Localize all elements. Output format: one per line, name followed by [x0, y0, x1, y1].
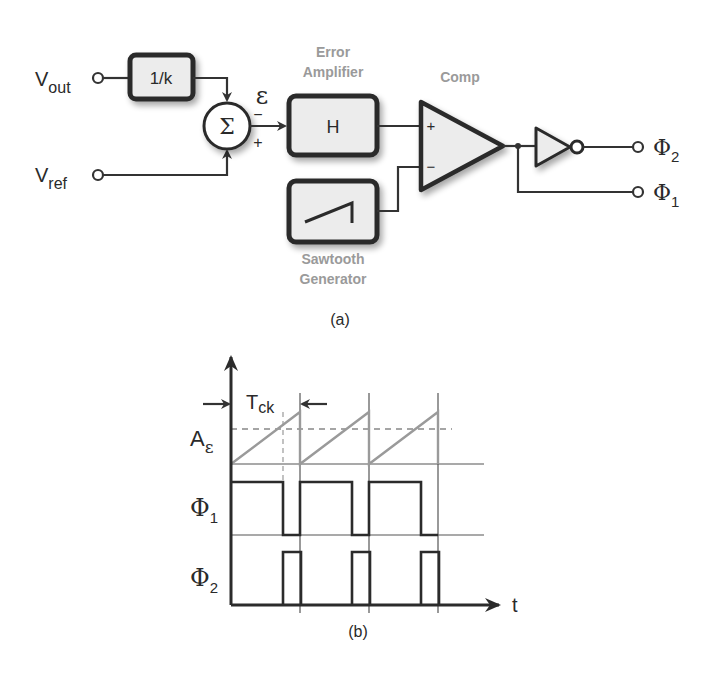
vref-terminal [93, 170, 103, 180]
sawtooth-title-1: Sawtooth [302, 251, 365, 267]
phi2-output-label: Φ2 [653, 135, 679, 165]
block-diagram: Vout 1/k Vref Σ − + ε Error Amplifier [35, 44, 679, 328]
feedback-wire [193, 78, 227, 100]
sawtooth-waveform [231, 412, 438, 464]
inverter-triangle [536, 128, 570, 166]
phi2-pulse-2 [352, 552, 370, 605]
phi1-output-label: Φ1 [653, 180, 679, 210]
vref-wire [103, 151, 227, 175]
summer-symbol: Σ [219, 114, 235, 139]
threshold-label: Aε [190, 426, 214, 457]
timing-diagram: t Tck Aε Φ1 Φ2 (b) [190, 357, 518, 640]
phi1-timing-label: Φ1 [190, 494, 218, 526]
inverter-bubble [571, 141, 583, 153]
phi2-pulse-1 [283, 552, 301, 605]
phi1-waveform [231, 482, 438, 535]
sawtooth-to-comp-wire [377, 167, 421, 211]
sawtooth-title-2: Generator [300, 271, 367, 287]
phi2-pulse-3 [421, 552, 439, 605]
error-amplifier-title-2: Amplifier [303, 64, 364, 80]
time-axis-label: t [512, 594, 518, 616]
summer-plus-sign: + [253, 134, 262, 151]
comparator-plus-sign: + [427, 117, 436, 134]
caption-a: (a) [330, 311, 350, 328]
phi2-timing-label: Φ2 [190, 564, 218, 596]
pwm-controller-figure: Vout 1/k Vref Σ − + ε Error Amplifier [0, 0, 718, 679]
error-amplifier-title-1: Error [316, 44, 351, 60]
vout-terminal [93, 73, 103, 83]
error-amplifier-label: H [327, 117, 340, 137]
comparator-minus-sign: − [427, 158, 436, 175]
phi1-terminal [633, 187, 643, 197]
vout-label: Vout [35, 68, 71, 96]
comparator-title: Comp [440, 69, 480, 85]
period-label: Tck [246, 391, 275, 416]
comparator-triangle [421, 102, 503, 190]
error-signal-label: ε [256, 82, 268, 110]
caption-b: (b) [348, 623, 368, 640]
phi2-terminal [633, 142, 643, 152]
vref-label: Vref [35, 164, 68, 192]
feedback-block-label: 1/k [150, 69, 173, 88]
